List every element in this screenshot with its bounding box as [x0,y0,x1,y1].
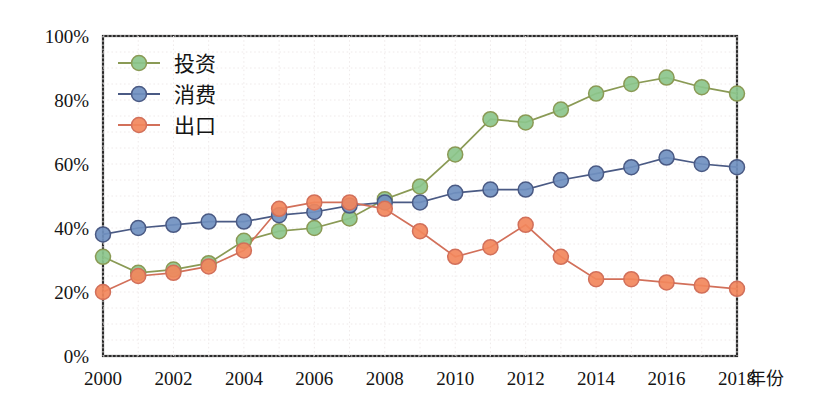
data-point-marker [307,221,322,236]
data-point-marker [553,249,568,264]
data-point-marker [96,227,111,242]
data-point-marker [659,275,674,290]
legend-label: 投资 [174,52,216,76]
x-axis-tick-label: 2008 [366,368,404,389]
x-axis-tick-label: 2002 [154,368,192,389]
y-axis-tick-label: 60% [54,154,89,175]
data-point-marker [589,86,604,101]
data-point-marker [166,265,181,280]
data-point-marker [624,160,639,175]
data-point-marker [448,147,463,162]
data-point-marker [659,70,674,85]
data-point-marker [518,217,533,232]
x-axis-tick-labels: 2000200220042006200820102012201420162018 [84,368,756,389]
x-axis-title: 年份 [748,369,784,389]
data-point-marker [730,281,745,296]
data-point-marker [730,86,745,101]
data-point-marker [694,278,709,293]
data-point-marker [201,259,216,274]
x-axis-tick-label: 2004 [225,368,264,389]
x-axis-tick-label: 2010 [436,368,474,389]
data-point-marker [413,224,428,239]
x-axis-tick-label: 2006 [295,368,333,389]
data-point-marker [96,249,111,264]
data-point-marker [553,102,568,117]
data-point-marker [589,272,604,287]
data-point-marker [624,77,639,92]
data-point-marker [694,80,709,95]
data-point-marker [518,182,533,197]
data-point-marker [730,160,745,175]
legend-label: 出口 [174,114,216,138]
data-point-marker [96,285,111,300]
y-axis-tick-label: 20% [54,282,89,303]
y-axis-tick-label: 0% [64,346,90,367]
y-axis-tick-label: 100% [45,26,90,47]
x-axis-tick-label: 2000 [84,368,122,389]
data-point-marker [518,115,533,130]
data-point-marker [236,214,251,229]
data-point-marker [694,157,709,172]
line-chart: 0%20%40%60%80%100% 200020022004200620082… [0,0,834,411]
x-axis-tick-label: 2016 [648,368,686,389]
data-point-marker [448,249,463,264]
legend-marker-swatch [132,87,147,102]
chart-canvas: 0%20%40%60%80%100% 200020022004200620082… [0,0,834,411]
data-point-marker [624,272,639,287]
y-axis-tick-labels: 0%20%40%60%80%100% [45,26,90,367]
data-point-marker [413,195,428,210]
x-axis-tick-label: 2014 [577,368,616,389]
legend-label: 消费 [174,83,216,107]
data-point-marker [201,214,216,229]
data-point-marker [236,243,251,258]
data-point-marker [166,217,181,232]
legend-marker-swatch [132,56,147,71]
data-point-marker [272,201,287,216]
legend-marker-swatch [132,118,147,133]
data-point-marker [413,179,428,194]
data-point-marker [272,224,287,239]
data-point-marker [483,182,498,197]
y-axis-tick-label: 80% [54,90,89,111]
data-point-marker [448,185,463,200]
data-point-marker [377,201,392,216]
data-point-marker [553,173,568,188]
data-point-marker [483,240,498,255]
data-point-marker [342,195,357,210]
data-point-marker [659,150,674,165]
data-point-marker [483,112,498,127]
data-point-marker [131,269,146,284]
data-point-marker [307,195,322,210]
data-point-marker [131,221,146,236]
x-axis-tick-label: 2012 [507,368,545,389]
y-axis-tick-label: 40% [54,218,89,239]
data-point-marker [589,166,604,181]
